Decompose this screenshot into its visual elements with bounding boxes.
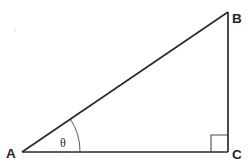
edge-hypotenuse-ab xyxy=(22,12,228,152)
right-angle-square-icon xyxy=(211,135,228,152)
vertex-label-c: C xyxy=(232,147,242,162)
theta-angle-arc xyxy=(70,119,80,152)
theta-angle-label: θ xyxy=(60,136,66,150)
vertex-label-a: A xyxy=(6,146,16,161)
triangle-diagram-svg: A B C θ xyxy=(0,0,248,166)
vertex-label-b: B xyxy=(232,11,242,26)
paper-speck-artifact xyxy=(14,28,16,32)
geometry-diagram-canvas: A B C θ xyxy=(0,0,248,166)
